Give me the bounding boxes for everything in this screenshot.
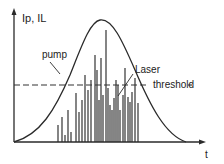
y-axis-arrow-icon [12,8,17,15]
x-axis-label: t [205,150,208,160]
threshold-label: threshold [153,80,194,90]
x-axis-arrow-icon [199,140,206,145]
laser-label: Laser [135,65,160,75]
y-axis-label: Ip, IL [22,13,46,24]
laser-spikes [58,30,138,142]
pump-leader-line [50,62,60,74]
pump-label: pump [42,50,67,60]
